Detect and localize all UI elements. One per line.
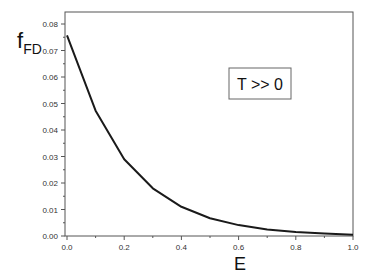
y-tick-label: 0.08: [42, 20, 58, 29]
y-axis-title: fFD: [17, 28, 42, 57]
y-axis-subscript: FD: [23, 41, 42, 57]
x-tick-label: 0.8: [290, 243, 302, 252]
x-tick-label: 1.0: [347, 243, 359, 252]
y-tick-label: 0.02: [42, 179, 58, 188]
annotation-text: T >> 0: [237, 76, 283, 93]
y-tick-label: 0.01: [42, 206, 58, 215]
x-axis: 0.00.20.40.60.81.0: [61, 236, 359, 252]
x-tick-label: 0.0: [61, 243, 73, 252]
x-tick-label: 0.2: [119, 243, 131, 252]
y-tick-label: 0.00: [42, 232, 58, 241]
plot-frame: [65, 12, 353, 236]
y-axis: 0.000.010.020.030.040.050.060.070.08: [42, 20, 65, 241]
y-tick-label: 0.03: [42, 153, 58, 162]
chart: 0.000.010.020.030.040.050.060.070.08 0.0…: [0, 0, 374, 280]
x-tick-label: 0.6: [233, 243, 245, 252]
y-tick-label: 0.07: [42, 47, 58, 56]
data-line: [67, 35, 353, 234]
y-tick-label: 0.05: [42, 100, 58, 109]
y-tick-label: 0.04: [42, 126, 58, 135]
x-axis-title: E: [234, 254, 246, 274]
annotation-box: T >> 0: [229, 68, 291, 99]
y-tick-label: 0.06: [42, 73, 58, 82]
x-tick-label: 0.4: [176, 243, 188, 252]
